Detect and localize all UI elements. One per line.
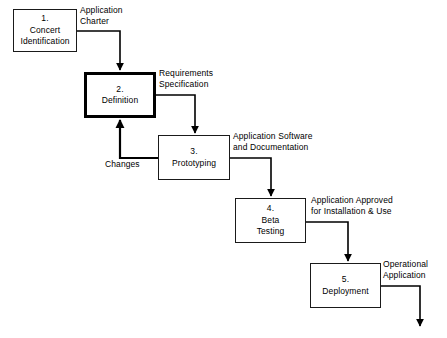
node-1-label: Concert Identification [20, 25, 69, 48]
flow-diagram: 1. Concert Identification 2. Definition … [0, 0, 447, 338]
node-2-number: 2. [116, 84, 123, 96]
connector-4-to-5 [306, 222, 348, 261]
node-concert-identification[interactable]: 1. Concert Identification [13, 9, 77, 52]
node-3-label: Prototyping [172, 158, 216, 170]
node-deployment[interactable]: 5. Deployment [310, 263, 381, 308]
connector-1-to-2 [77, 31, 120, 70]
node-5-number: 5. [342, 274, 349, 286]
node-5-label: Deployment [322, 286, 368, 298]
connector-3-to-2 [120, 120, 158, 158]
connector-3-to-4 [230, 158, 271, 196]
node-4-number: 4. [267, 203, 274, 215]
edge-label-application-approved-for-installation-and-use: Application Approved for Installation & … [311, 195, 393, 217]
node-beta-testing[interactable]: 4. Beta Testing [235, 198, 306, 243]
edge-label-changes: Changes [105, 159, 140, 170]
edge-label-operational-application: Operational Application [383, 259, 428, 281]
edge-label-application-charter: Application Charter [80, 5, 123, 27]
node-2-label: Definition [102, 95, 138, 107]
node-3-number: 3. [190, 146, 197, 158]
node-1-number: 1. [41, 13, 48, 25]
node-prototyping[interactable]: 3. Prototyping [158, 135, 230, 180]
node-4-label: Beta Testing [257, 215, 285, 238]
node-definition[interactable]: 2. Definition [84, 72, 156, 118]
connector-2-to-3 [156, 95, 195, 133]
edge-label-requirements-specification: Requirements Specification [159, 68, 213, 90]
connector-5-to-output [381, 286, 420, 326]
edge-label-application-software-and-documentation: Application Software and Documentation [233, 131, 313, 153]
